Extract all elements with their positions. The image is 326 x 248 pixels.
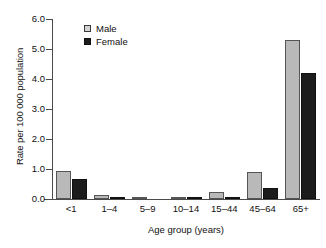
- bar-male-3: [171, 197, 186, 199]
- legend: Male Female: [84, 22, 128, 48]
- x-tick-label: 15–44: [205, 204, 243, 214]
- bar-male-6: [285, 40, 300, 199]
- legend-label-male: Male: [96, 24, 117, 34]
- x-tick-label: 1–4: [90, 204, 128, 214]
- bar-chart: Rate per 100 000 population 0.01.02.03.0…: [0, 0, 326, 248]
- legend-swatch-female-icon: [84, 38, 91, 45]
- legend-label-female: Female: [96, 37, 128, 47]
- x-axis-line: [44, 199, 320, 200]
- legend-item-male[interactable]: Male: [84, 22, 128, 35]
- bar-female-5: [263, 188, 278, 199]
- bar-male-5: [247, 172, 262, 199]
- y-tick-label: 5.0: [15, 44, 45, 54]
- bar-female-0: [72, 179, 87, 199]
- y-tick-label: 2.0: [15, 134, 45, 144]
- bar-female-6: [301, 73, 316, 199]
- bar-female-3: [187, 197, 202, 199]
- bar-female-4: [225, 197, 240, 199]
- bar-female-1: [110, 197, 125, 199]
- legend-item-female[interactable]: Female: [84, 35, 128, 48]
- y-tick-label: 4.0: [15, 74, 45, 84]
- y-tick-label: 0.0: [15, 194, 45, 204]
- bar-male-4: [209, 192, 224, 199]
- x-tick-label: 65+: [282, 204, 320, 214]
- x-tick-label: 10–14: [167, 204, 205, 214]
- y-tick-label: 1.0: [15, 164, 45, 174]
- y-tick-mark: [46, 199, 52, 200]
- x-tick-label: 5–9: [129, 204, 167, 214]
- bar-male-0: [56, 171, 71, 200]
- x-tick-label: <1: [52, 204, 90, 214]
- y-tick-label: 3.0: [15, 104, 45, 114]
- y-tick-label: 6.0: [15, 14, 45, 24]
- x-axis-title: Age group (years): [52, 224, 320, 235]
- x-tick-label: 45–64: [243, 204, 281, 214]
- bar-male-1: [94, 195, 109, 199]
- bar-male-2: [132, 197, 147, 199]
- legend-swatch-male-icon: [84, 25, 91, 32]
